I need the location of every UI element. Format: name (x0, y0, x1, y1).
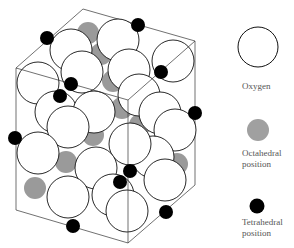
tetrahedral-legend-label-line1: Tetrahedral (242, 217, 283, 228)
oxygen-legend-icon (236, 25, 280, 69)
crystal-structure-diagram (0, 0, 220, 248)
octahedral-legend-label-line1: Octahedral (242, 148, 281, 159)
tetrahedral-legend-label-line2: position (242, 228, 271, 239)
octahedral-legend-icon (246, 118, 270, 142)
tetrahedral-legend-icon (249, 198, 265, 214)
octahedral-legend-label-line2: position (242, 159, 271, 170)
oxygen-legend-label: Oxygen (242, 81, 271, 92)
oxygen-spheres (17, 19, 196, 232)
